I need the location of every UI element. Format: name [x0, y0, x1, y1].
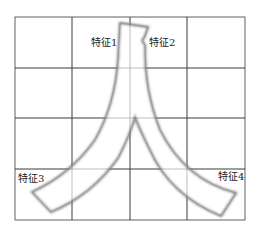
label-feature-1: 特征1	[91, 38, 117, 48]
label-feature-4: 特征4	[218, 172, 244, 182]
label-feature-2: 特征2	[149, 38, 175, 48]
character-grid-diagram	[0, 0, 258, 238]
label-feature-3: 特征3	[18, 174, 44, 184]
character-ren-outline	[32, 23, 236, 216]
